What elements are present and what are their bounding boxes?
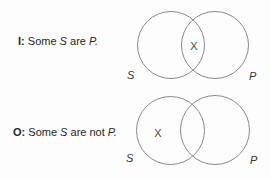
x-mark-i: X — [188, 40, 200, 52]
statement-o-word1: Some — [28, 126, 57, 138]
venn-diagram-figure: I: Some S are P. X S P O: Some S are not… — [0, 0, 270, 179]
x-mark-o: X — [152, 127, 164, 139]
statement-o-letter: O: — [13, 126, 25, 138]
circle-p-o-label: P — [250, 155, 257, 166]
statement-o-predicate-term: P. — [108, 126, 117, 138]
statement-i-predicate-term: P. — [89, 35, 98, 47]
statement-o-subject-term: S — [60, 126, 67, 138]
circle-s-i-label: S — [127, 70, 134, 81]
statement-o: O: Some S are not P. — [13, 127, 117, 138]
statement-i-subject-term: S — [60, 35, 67, 47]
circle-p-i-label: P — [249, 71, 256, 82]
statement-i: I: Some S are P. — [18, 36, 98, 47]
circle-p-o — [180, 95, 250, 165]
statement-i-letter: I: — [18, 35, 25, 47]
circle-s-o-label: S — [126, 153, 133, 164]
statement-i-word1: Some — [28, 35, 57, 47]
statement-i-word2: are — [70, 35, 86, 47]
statement-o-word2: are not — [71, 126, 105, 138]
